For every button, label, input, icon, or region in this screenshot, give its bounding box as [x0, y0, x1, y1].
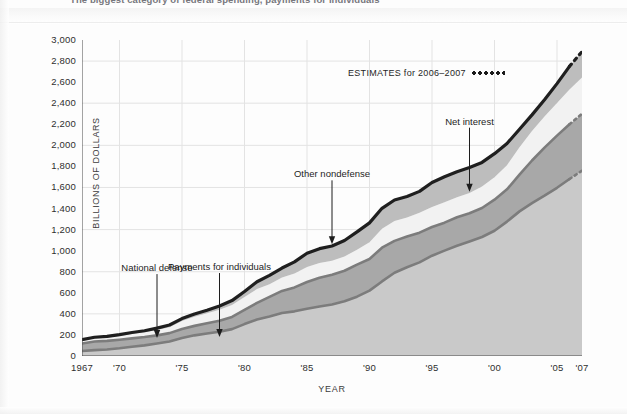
dotted-line-sample-icon [471, 71, 505, 75]
y-tick-2200: 2,200 [30, 118, 76, 129]
y-tick-2000: 2,000 [30, 139, 76, 150]
y-tick-2800: 2,800 [30, 55, 76, 66]
x-tick-2005: '05 [551, 362, 564, 373]
y-tick-2400: 2,400 [30, 97, 76, 108]
scan-edge-shadow-bottom [0, 407, 627, 414]
scan-edge-shadow-left [0, 0, 9, 414]
y-tick-0: 0 [30, 350, 76, 361]
page-curl-line [0, 22, 627, 23]
x-tick-2000: '00 [488, 362, 501, 373]
page-headline: The biggest category of federal spending… [70, 0, 490, 6]
x-tick-1980: '80 [238, 362, 251, 373]
x-tick-1967: 1967 [71, 362, 93, 373]
estimates-legend: ESTIMATES for 2006–2007 [348, 68, 505, 78]
y-tick-1800: 1,800 [30, 160, 76, 171]
x-tick-1995: '95 [426, 362, 439, 373]
x-tick-1970: '70 [113, 362, 126, 373]
y-axis-title: BILLIONS OF DOLLARS [91, 88, 101, 258]
x-axis-title: YEAR [318, 384, 345, 394]
annotation-net-interest: Net interest [445, 116, 494, 127]
y-tick-1200: 1,200 [30, 224, 76, 235]
y-tick-3000: 3,000 [30, 34, 76, 45]
x-tick-2007: '07 [576, 362, 589, 373]
y-tick-1600: 1,600 [30, 181, 76, 192]
estimates-legend-label: ESTIMATES for 2006–2007 [348, 68, 466, 78]
chart-plot-area: BILLIONS OF DOLLARS YEAR 02004006008001,… [82, 40, 582, 356]
annotation-other-nondefense: Other nondefense [294, 168, 370, 179]
stacked-area-chart [82, 40, 582, 356]
y-tick-600: 600 [30, 287, 76, 298]
y-tick-400: 400 [30, 308, 76, 319]
y-tick-1000: 1,000 [30, 245, 76, 256]
y-tick-800: 800 [30, 266, 76, 277]
x-tick-1975: '75 [176, 362, 189, 373]
chart-page: The biggest category of federal spending… [0, 0, 627, 414]
y-tick-200: 200 [30, 329, 76, 340]
y-tick-2600: 2,600 [30, 76, 76, 87]
x-tick-1990: '90 [363, 362, 376, 373]
x-tick-1985: '85 [301, 362, 314, 373]
y-tick-1400: 1,400 [30, 203, 76, 214]
annotation-payments-for-individuals: Payments for individuals [168, 261, 271, 272]
